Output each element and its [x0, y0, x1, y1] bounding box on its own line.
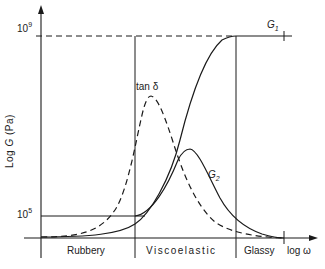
label-tan-delta: tan δ: [136, 82, 158, 92]
y-tick-1e5-base: 10: [17, 209, 28, 220]
label-g1-sub: 1: [275, 25, 279, 32]
label-g2: G2: [208, 170, 220, 180]
label-g2-symbol: G: [208, 169, 216, 180]
y-axis-label-prefix: Log: [4, 150, 15, 168]
x-axis-arrow-icon: [309, 235, 318, 241]
y-axis-label: Log G (Pa): [4, 114, 15, 168]
curve-tan-delta: [41, 96, 284, 238]
label-g2-sub: 2: [216, 175, 220, 182]
y-tick-1e9-base: 10: [17, 23, 28, 34]
label-g1-symbol: G: [267, 19, 275, 30]
curve-g1: [41, 36, 236, 237]
y-axis-label-symbol: G: [4, 138, 15, 146]
diagram-canvas: [0, 0, 325, 269]
x-axis-label: log ω: [287, 246, 311, 256]
region-glassy: Glassy: [244, 246, 275, 256]
region-rubbery: Rubbery: [67, 246, 105, 256]
y-tick-1e9-exp: 9: [28, 21, 32, 28]
region-viscoelastic: Viscoelastic: [146, 246, 217, 256]
curve-g2: [135, 149, 284, 238]
y-tick-1e5: 105: [17, 210, 32, 220]
y-tick-1e9: 109: [17, 24, 32, 34]
y-axis-label-unit: (Pa): [4, 114, 15, 135]
y-axis-arrow-icon: [38, 5, 44, 14]
label-g1: G1: [267, 20, 279, 30]
y-tick-1e5-exp: 5: [28, 207, 32, 214]
